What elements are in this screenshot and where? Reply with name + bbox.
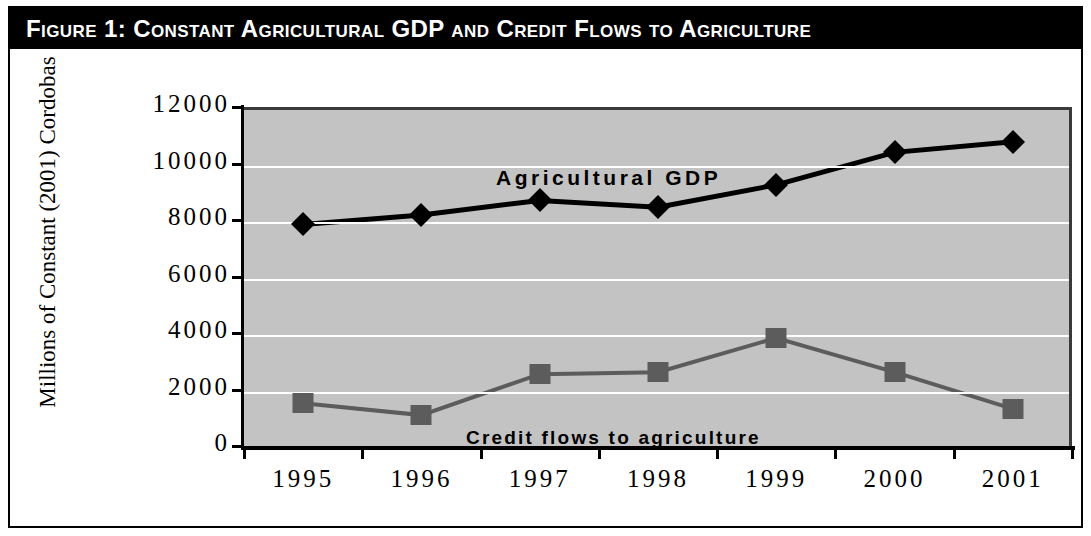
- y-axis-tick-label: 6000: [60, 260, 230, 288]
- figure-title-bar: Figure 1: Constant Agricultural GDP and …: [10, 8, 1081, 49]
- x-axis-tick-label: 1995: [244, 465, 362, 493]
- x-axis-tick-label: 1999: [717, 465, 835, 493]
- y-axis-tick-label: 10000: [60, 147, 230, 175]
- y-axis-tick-labels: 120001000080006000400020000: [46, 49, 230, 526]
- figure-container: Figure 1: Constant Agricultural GDP and …: [8, 6, 1083, 528]
- data-point-marker: [411, 405, 432, 425]
- gridline: [244, 166, 1069, 168]
- y-axis-tick-label: 8000: [60, 203, 230, 231]
- y-axis-tick-label: 4000: [60, 316, 230, 344]
- x-axis-tick-label: 2000: [835, 465, 953, 493]
- series-annotation-agricultural-gdp: Agricultural GDP: [496, 166, 721, 190]
- y-axis-tick: [232, 389, 244, 392]
- data-point-marker: [293, 393, 314, 413]
- data-point-marker: [648, 362, 669, 382]
- x-axis-tick: [953, 446, 956, 459]
- gridline: [244, 279, 1069, 281]
- gridline: [244, 335, 1069, 337]
- y-axis-tick: [232, 276, 244, 279]
- y-axis-tick: [232, 219, 244, 222]
- y-axis-tick: [232, 163, 244, 166]
- x-axis-tick-label: 2001: [954, 465, 1072, 493]
- gridline: [244, 392, 1069, 394]
- y-axis-tick-label: 2000: [60, 373, 230, 401]
- x-axis-line: [241, 446, 1075, 450]
- y-axis-tick-label: 12000: [60, 90, 230, 118]
- x-axis-tick: [598, 446, 601, 459]
- x-axis-tick-label: 1997: [481, 465, 599, 493]
- x-axis-tick: [1071, 446, 1074, 459]
- data-point-marker: [529, 364, 550, 384]
- data-point-marker: [884, 362, 905, 382]
- x-axis-tick-label: 1996: [362, 465, 480, 493]
- y-axis-tick: [232, 106, 244, 109]
- x-axis-tick: [361, 446, 364, 459]
- plot-area: Agricultural GDP Credit flows to agricul…: [244, 107, 1072, 446]
- x-axis-tick: [243, 446, 246, 459]
- chart-region: Millions of Constant (2001) Cordobas 120…: [10, 49, 1081, 526]
- x-axis-tick-label: 1998: [599, 465, 717, 493]
- y-axis-tick: [232, 332, 244, 335]
- gridline: [244, 222, 1069, 224]
- y-axis-tick-label: 0: [60, 429, 230, 457]
- x-axis-tick: [716, 446, 719, 459]
- x-axis-tick: [480, 446, 483, 459]
- data-point-marker: [766, 328, 787, 348]
- data-point-marker: [1002, 399, 1023, 419]
- x-axis-tick: [834, 446, 837, 459]
- figure-title: Figure 1: Constant Agricultural GDP and …: [10, 15, 811, 43]
